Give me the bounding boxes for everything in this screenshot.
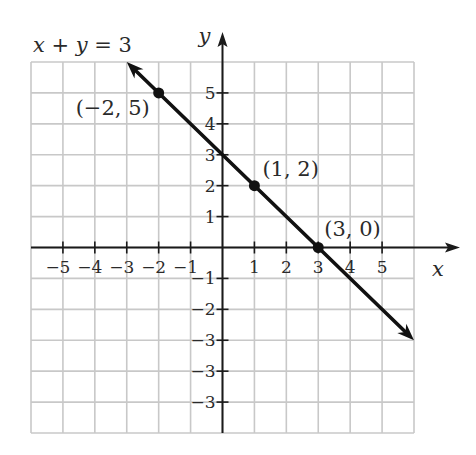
y-tick-label: 5	[205, 83, 216, 103]
y-tick-label: 4	[205, 114, 216, 134]
point-label: (3, 0)	[324, 217, 380, 241]
point-label: (−2, 5)	[76, 96, 150, 120]
y-axis-label: y	[198, 24, 212, 48]
x-tick-label: 5	[377, 257, 388, 277]
x-tick-label: 3	[313, 257, 324, 277]
function-line	[134, 69, 407, 333]
x-tick-label: −2	[141, 257, 166, 277]
data-point	[153, 87, 164, 98]
data-point	[249, 180, 260, 191]
x-tick-label: −4	[77, 257, 102, 277]
data-point	[313, 242, 324, 253]
y-tick-label: −2	[190, 299, 215, 319]
y-tick-label: 2	[205, 176, 216, 196]
x-tick-label: 1	[249, 257, 260, 277]
y-tick-label: 1	[205, 207, 216, 227]
y-tick-label: −1	[190, 268, 215, 288]
y-tick-label: −3	[190, 361, 215, 381]
y-tick-label: −3	[190, 330, 215, 350]
x-tick-label: −3	[109, 257, 134, 277]
point-label: (1, 2)	[262, 157, 318, 181]
equation-label: x + y = 3	[33, 33, 132, 57]
x-tick-label: −5	[45, 257, 70, 277]
x-axis-label: x	[432, 257, 444, 281]
series	[127, 62, 414, 340]
y-tick-label: −3	[190, 392, 215, 412]
x-tick-label: 2	[281, 257, 292, 277]
line-chart: −5−4−3−2−11234554321−1−2−3−3−3 (−2, 5)(1…	[0, 0, 476, 455]
